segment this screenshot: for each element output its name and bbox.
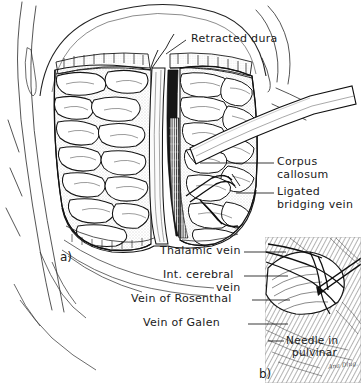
label-ligated-line2: bridging vein xyxy=(277,199,353,212)
label-ligated-line1: Ligated xyxy=(277,186,320,199)
illustration-page: Retracted dura Corpus callosum Ligated b… xyxy=(0,0,362,391)
label-thalamic-vein: Thalamic vein xyxy=(160,245,241,258)
panel-label-b: b) xyxy=(259,367,271,381)
left-cerebral-hemisphere xyxy=(54,65,151,250)
label-vein-of-galen: Vein of Galen xyxy=(143,317,220,330)
label-corpus-callosum-line1: Corpus xyxy=(277,156,317,169)
scalp-flap-left xyxy=(6,2,64,312)
label-needle-line1: Needle in xyxy=(286,334,338,347)
panel-label-a: a) xyxy=(60,250,72,264)
label-corpus-callosum-line2: callosum xyxy=(277,169,328,182)
interhemispheric-fissure-dura-strip xyxy=(149,68,168,244)
label-needle-line2: pulvinar xyxy=(292,346,337,359)
label-retracted-dura: Retracted dura xyxy=(191,33,278,46)
label-int-cerebral-vein-line1: Int. cerebral xyxy=(163,269,234,282)
label-vein-of-rosenthal: Vein of Rosenthal xyxy=(131,293,232,306)
